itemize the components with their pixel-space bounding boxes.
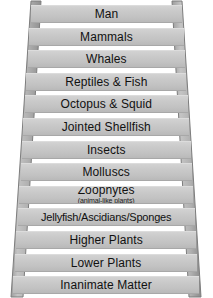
- ladder-rung-label: Mammals: [80, 31, 133, 43]
- ladder-rung-label: Higher Plants: [69, 234, 142, 246]
- ladder-rung-label: Zoophytes: [78, 186, 135, 197]
- ladder-rung: Reptiles & Fish: [26, 73, 186, 91]
- ladder-rung-label: Molluscs: [82, 166, 129, 178]
- ladder-rung: Octopus & Squid: [25, 95, 188, 113]
- ladder-rung: Jointed Shellfish: [23, 118, 189, 136]
- ladder-rung: Insects: [22, 141, 191, 159]
- ladder-rung: Man: [31, 5, 183, 23]
- ladder-rung-label: Man: [95, 8, 119, 20]
- ladder-rung-label: Lower Plants: [71, 257, 142, 269]
- ladder-rung-stack: ManMammalsWhalesReptiles & FishOctopus &…: [0, 0, 213, 298]
- ladder-rung-label: Jointed Shellfish: [62, 121, 151, 133]
- ladder-rung: Whales: [28, 50, 185, 68]
- ladder-rung: Zoophytes(animal-like plants): [19, 186, 193, 204]
- ladder-rung-label: Reptiles & Fish: [65, 76, 147, 88]
- ladder-rung: Higher Plants: [16, 231, 196, 249]
- ladder-rung-label: Insects: [87, 144, 126, 156]
- ladder-rung-label: Inanimate Matter: [60, 279, 152, 291]
- ladder-rung-label: Jellyfish/Ascidians/Sponges: [41, 211, 171, 223]
- ladder-rung: Inanimate Matter: [13, 276, 198, 294]
- ladder-rung-label: Whales: [86, 53, 127, 65]
- ladder-rung: Lower Plants: [15, 254, 198, 272]
- ladder-rung: Molluscs: [21, 163, 192, 181]
- ladder-rung-sublabel: (animal-like plants): [78, 197, 135, 204]
- ladder-rung-label: Octopus & Squid: [61, 98, 153, 110]
- ladder-rung: Mammals: [29, 28, 184, 46]
- ladder-rung: Jellyfish/Ascidians/Sponges: [18, 208, 195, 226]
- ladder-rung-text-group: Zoophytes(animal-like plants): [78, 186, 135, 204]
- ladder-of-nature-figure: ManMammalsWhalesReptiles & FishOctopus &…: [0, 0, 213, 298]
